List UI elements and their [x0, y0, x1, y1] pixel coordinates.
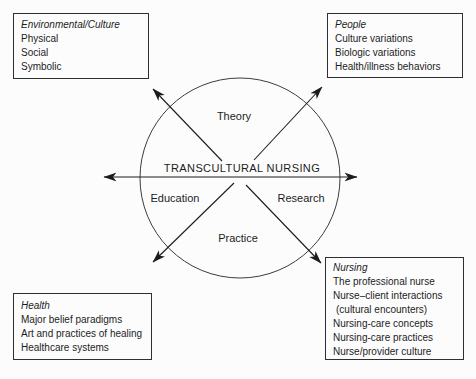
center-title: TRANSCULTURAL NURSING [164, 162, 320, 174]
environment-culture-box-item: Social [21, 46, 144, 60]
people-box-item: Health/illness behaviors [335, 60, 458, 74]
people-box-item: Biologic variations [335, 46, 458, 60]
nursing-box-title: Nursing [333, 261, 459, 275]
quadrant-label-education: Education [151, 192, 200, 204]
nursing-box-item: The professional nurse [333, 275, 459, 289]
health-box-item: Major belief paradigms [21, 313, 147, 327]
quadrant-label-practice: Practice [218, 232, 258, 244]
nursing-box-item: (cultural encounters) [333, 303, 459, 317]
environment-culture-box-item: Physical [21, 32, 144, 46]
arrow-upper-left [153, 89, 222, 161]
people-box: People Culture variations Biologic varia… [327, 13, 463, 78]
health-box-item: Healthcare systems [21, 341, 147, 355]
nursing-box-item: Nursing-care practices [333, 331, 459, 345]
health-box-item: Art and practices of healing [21, 327, 147, 341]
people-box-item: Culture variations [335, 32, 458, 46]
nursing-box-item: Nurse/provider culture [333, 345, 459, 359]
quadrant-label-research: Research [277, 192, 324, 204]
quadrant-label-theory: Theory [217, 110, 251, 122]
nursing-box-item: Nursing-care concepts [333, 317, 459, 331]
environment-culture-box-item: Symbolic [21, 60, 144, 74]
core-circle [140, 78, 340, 278]
arrow-upper-right [254, 87, 322, 160]
nursing-box-item: Nurse–client interactions [333, 289, 459, 303]
nursing-box: Nursing The professional nurse Nurse–cli… [325, 257, 464, 360]
health-box-title: Health [21, 299, 147, 313]
people-box-title: People [335, 18, 458, 32]
health-box: Health Major belief paradigms Art and pr… [13, 293, 152, 360]
transcultural-nursing-diagram: Theory Education Research Practice TRANS… [0, 0, 476, 379]
environment-culture-box: Environmental/Culture Physical Social Sy… [13, 13, 149, 79]
environment-culture-box-title: Environmental/Culture [21, 18, 144, 32]
